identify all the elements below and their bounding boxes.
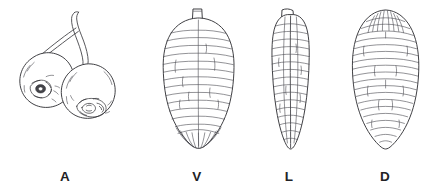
illustration-plate: A V L D — [0, 0, 438, 192]
panel-v-ventral — [163, 9, 234, 148]
panel-label-v: V — [177, 170, 217, 184]
panel-label-a: A — [45, 170, 85, 184]
cherry-right — [61, 64, 115, 118]
panel-label-d: D — [365, 170, 405, 184]
panel-l-lateral — [272, 9, 309, 149]
panel-d-dorsal — [352, 10, 418, 149]
panel-a-cherries — [20, 12, 115, 119]
panel-label-l: L — [269, 170, 309, 184]
plate-artwork — [0, 0, 438, 192]
